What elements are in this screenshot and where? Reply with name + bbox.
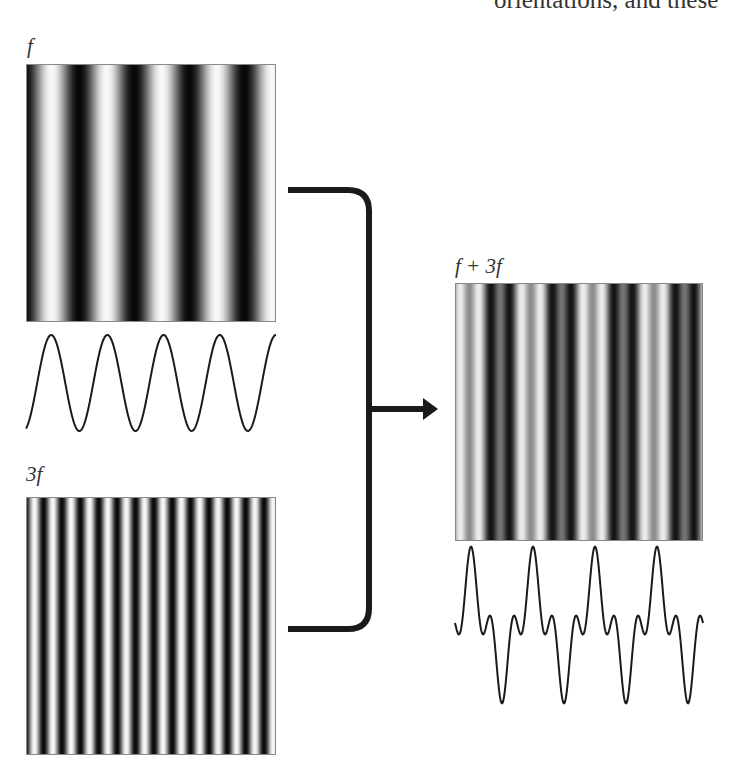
label-sum: f + 3f [455, 254, 502, 279]
arrow-right-icon [369, 398, 438, 420]
waveform-sum [455, 545, 703, 705]
grating-sum [455, 283, 703, 541]
